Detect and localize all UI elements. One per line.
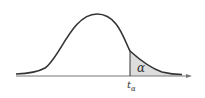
critical-value-subscript: α xyxy=(131,85,136,93)
density-curve xyxy=(16,14,182,75)
axis-arrowhead xyxy=(186,74,192,78)
critical-value-label: tα xyxy=(127,79,136,93)
distribution-diagram xyxy=(0,0,205,98)
alpha-area-label: α xyxy=(137,61,145,75)
